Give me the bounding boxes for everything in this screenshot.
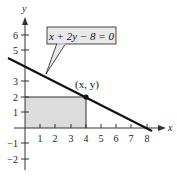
equation-label: x + 2y − 8 = 0 bbox=[48, 30, 115, 42]
y-tick-2: 2 bbox=[13, 92, 18, 103]
graph-figure: 1 2 3 4 5 6 7 8 6 5 3 2 1 −1 −2 x y (x, … bbox=[0, 0, 177, 176]
x-tick-8: 8 bbox=[145, 133, 150, 144]
y-tick-5: 5 bbox=[13, 45, 18, 56]
graph-svg: 1 2 3 4 5 6 7 8 6 5 3 2 1 −1 −2 x y (x, … bbox=[0, 0, 177, 176]
x-tick-3: 3 bbox=[69, 133, 74, 144]
x-tick-7: 7 bbox=[129, 133, 134, 144]
point-label: (x, y) bbox=[75, 78, 99, 91]
equation-callout: x + 2y − 8 = 0 bbox=[46, 27, 116, 74]
point-marker bbox=[83, 94, 88, 99]
callout-pointer bbox=[46, 43, 66, 74]
y-tick-3: 3 bbox=[13, 76, 18, 87]
x-tick-4: 4 bbox=[84, 133, 89, 144]
y-tick-neg2: −2 bbox=[7, 154, 18, 165]
x-tick-2: 2 bbox=[53, 133, 58, 144]
x-axis-arrow-icon bbox=[158, 125, 166, 131]
x-tick-1: 1 bbox=[38, 133, 43, 144]
y-tick-6: 6 bbox=[13, 30, 18, 41]
y-axis-label: y bbox=[21, 3, 27, 14]
x-tick-5: 5 bbox=[99, 133, 104, 144]
shaded-rectangle bbox=[25, 97, 86, 128]
x-axis-label: x bbox=[167, 122, 173, 133]
x-tick-6: 6 bbox=[114, 133, 119, 144]
y-axis-arrow-icon bbox=[22, 17, 28, 25]
y-tick-1: 1 bbox=[13, 107, 18, 118]
y-tick-neg1: −1 bbox=[7, 138, 18, 149]
